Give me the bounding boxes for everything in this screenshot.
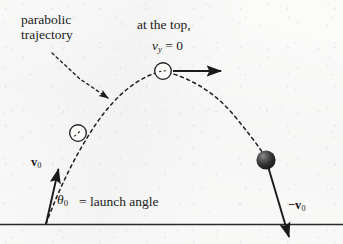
theta-symbol: θ <box>57 192 64 207</box>
open-circle-marker-apex <box>155 63 172 80</box>
shaded-ball <box>256 150 275 169</box>
label-final-velocity: −v0 <box>288 198 306 214</box>
dashed-leader-arrow <box>52 53 108 98</box>
label-parabolic-trajectory: parabolic trajectory <box>21 12 73 42</box>
physics-diagram-figure: parabolic trajectory at the top, vy = 0 … <box>0 0 343 244</box>
label-parabolic-line1: parabolic <box>21 12 73 27</box>
label-initial-velocity: v0 <box>31 155 41 171</box>
v0-subscript: 0 <box>37 161 41 170</box>
label-vy-equals-zero: vy = 0 <box>152 38 183 55</box>
open-circle-marker-ascent <box>70 125 87 142</box>
label-at-the-top: at the top, <box>137 17 191 32</box>
label-launch-angle-symbol: θ0 <box>57 192 68 209</box>
final-velocity-arrow <box>269 168 290 237</box>
vy-value: = 0 <box>165 38 183 53</box>
neg-v0-symbol: −v <box>288 198 301 212</box>
vy-subscript: y <box>158 44 162 54</box>
neg-v0-subscript: 0 <box>301 204 305 213</box>
label-parabolic-line2: trajectory <box>21 27 73 42</box>
theta-subscript: 0 <box>64 198 68 208</box>
label-launch-angle-text: = launch angle <box>79 194 159 209</box>
